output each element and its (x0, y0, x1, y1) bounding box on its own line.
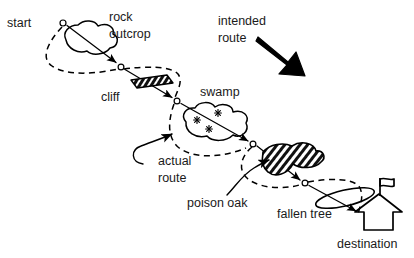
label-start: start (7, 16, 32, 30)
waypoint-marker (302, 180, 308, 186)
label-fallen-tree: fallen tree (277, 207, 332, 221)
label-actual-route-line2: route (158, 171, 187, 185)
label-poison-oak: poison oak (187, 196, 248, 210)
label-cliff: cliff (101, 90, 120, 104)
label-intended-route-line1: intended (218, 14, 266, 28)
waypoint-marker (174, 98, 180, 104)
waypoint-start-circle (60, 20, 66, 26)
label-actual-route-line1: actual (158, 154, 191, 168)
label-destination: destination (337, 237, 398, 251)
route-map-svg: start rock outcrop cliff intended route … (0, 0, 414, 258)
waypoint-marker (118, 64, 124, 70)
label-swamp: swamp (200, 85, 240, 99)
label-rock-outcrop-line1: rock (109, 10, 133, 24)
label-rock-outcrop-line2: outcrop (109, 27, 151, 41)
waypoint-marker (250, 141, 256, 147)
diagram-canvas: start rock outcrop cliff intended route … (0, 0, 414, 258)
label-intended-route-line2: route (218, 31, 247, 45)
